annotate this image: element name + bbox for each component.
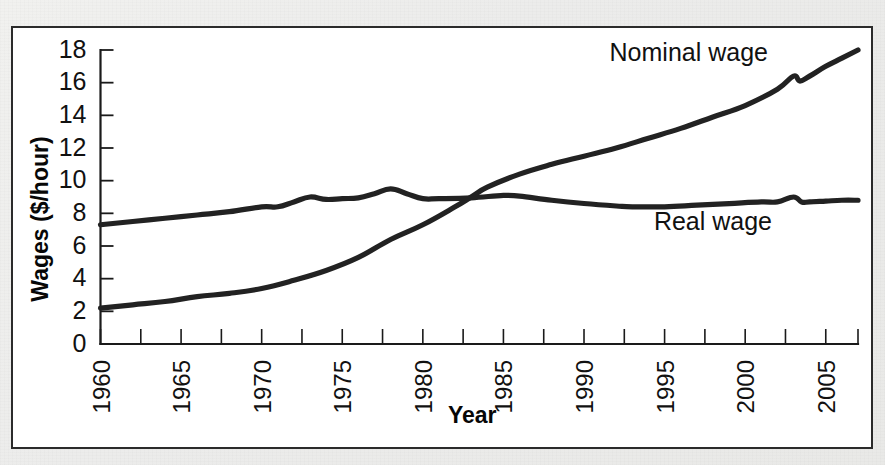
x-tick-label: 1980 xyxy=(410,360,437,413)
y-tick-label: 0 xyxy=(73,329,87,357)
series-lines xyxy=(101,50,859,308)
y-tick-label: 14 xyxy=(59,100,87,128)
x-tick-label: 1990 xyxy=(571,360,598,413)
y-tick-label: 4 xyxy=(73,263,87,291)
figure-root: 024681012141618 196019651970197519801985… xyxy=(0,0,885,465)
x-axis-title: Year xyxy=(448,402,497,428)
series-line-nominal-wage xyxy=(101,50,859,308)
y-tick-label: 18 xyxy=(59,35,87,63)
series-label-real-wage: Real wage xyxy=(654,207,772,235)
y-tick-label: 2 xyxy=(73,296,87,324)
x-tick-label: 2005 xyxy=(813,360,840,413)
y-tick-label: 8 xyxy=(73,198,87,226)
x-tick-label: 1965 xyxy=(168,360,195,413)
y-axis-title: Wages ($/hour) xyxy=(27,136,53,301)
x-tick-label: 2000 xyxy=(732,360,759,413)
x-tick-label: 1960 xyxy=(88,360,115,413)
y-tick-label: 16 xyxy=(59,67,87,95)
x-axis: 1960196519701975198019851990199520002005 xyxy=(88,329,859,413)
wages-line-chart: 024681012141618 196019651970197519801985… xyxy=(0,0,885,465)
x-tick-label: 1975 xyxy=(329,360,356,413)
x-tick-label: 1995 xyxy=(652,360,679,413)
y-tick-label: 10 xyxy=(59,165,87,193)
series-label-nominal-wage: Nominal wage xyxy=(610,38,768,66)
y-tick-label: 12 xyxy=(59,133,87,161)
y-tick-label: 6 xyxy=(73,231,87,259)
x-tick-label: 1970 xyxy=(249,360,276,413)
